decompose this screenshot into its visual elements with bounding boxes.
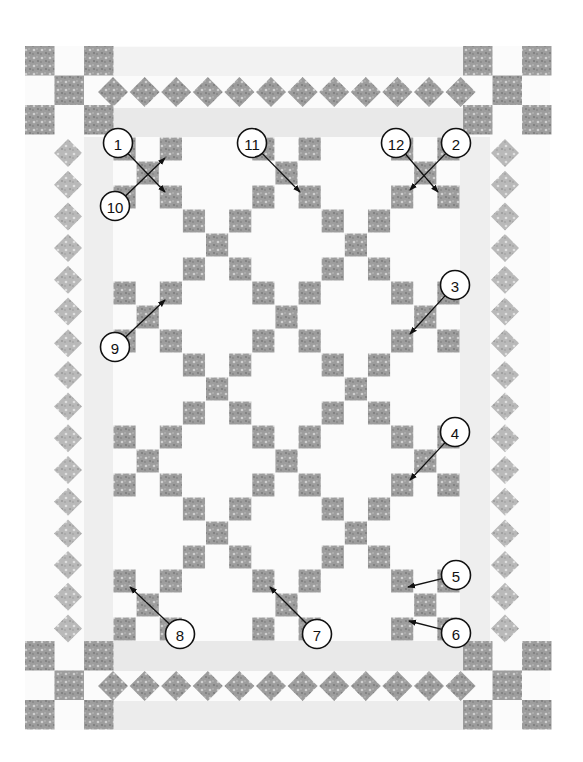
chain-square xyxy=(137,450,159,473)
chain-square xyxy=(322,402,344,425)
callout-number: 8 xyxy=(176,627,184,644)
corner-square xyxy=(493,76,523,106)
chain-square xyxy=(299,138,321,161)
chain-square xyxy=(368,258,390,281)
corner-square xyxy=(84,105,114,135)
callout-number: 7 xyxy=(313,627,321,644)
chain-square xyxy=(368,354,390,377)
chain-square xyxy=(252,282,274,305)
chain-square xyxy=(322,210,344,233)
chain-square xyxy=(391,330,413,353)
chain-square xyxy=(368,498,390,521)
chain-square xyxy=(229,402,251,425)
chain-square xyxy=(299,330,321,353)
corner-square xyxy=(84,46,114,76)
chain-square xyxy=(160,426,182,449)
chain-square xyxy=(414,450,436,473)
chain-square xyxy=(229,546,251,569)
chain-square xyxy=(114,474,136,497)
chain-square xyxy=(183,210,205,233)
chain-square xyxy=(391,570,413,593)
chain-square xyxy=(160,474,182,497)
chain-square xyxy=(114,426,136,449)
corner-square xyxy=(493,671,523,701)
chain-square xyxy=(322,498,344,521)
chain-square xyxy=(437,186,459,209)
callout-number: 10 xyxy=(107,199,124,216)
corner-square xyxy=(522,46,552,76)
callout-number: 2 xyxy=(452,136,460,153)
chain-square xyxy=(368,210,390,233)
corner-square xyxy=(522,641,552,671)
corner-square xyxy=(463,641,493,671)
chain-square xyxy=(160,570,182,593)
chain-square xyxy=(252,426,274,449)
chain-square xyxy=(252,186,274,209)
chain-square xyxy=(183,546,205,569)
chain-square xyxy=(114,618,136,641)
chain-square xyxy=(183,354,205,377)
chain-square xyxy=(275,450,297,473)
chain-square xyxy=(229,210,251,233)
chain-square xyxy=(229,258,251,281)
chain-square xyxy=(299,570,321,593)
chain-square xyxy=(252,570,274,593)
corner-square xyxy=(84,641,114,671)
chain-square xyxy=(322,546,344,569)
chain-square xyxy=(391,426,413,449)
callout-number: 4 xyxy=(451,425,459,442)
chain-square xyxy=(437,330,459,353)
callout-number: 5 xyxy=(452,568,460,585)
chain-square xyxy=(183,258,205,281)
chain-square xyxy=(299,474,321,497)
chain-square xyxy=(252,474,274,497)
callout-number: 6 xyxy=(452,626,460,643)
chain-square xyxy=(322,354,344,377)
chain-square xyxy=(160,186,182,209)
callout-number: 12 xyxy=(388,136,405,153)
corner-square xyxy=(522,105,552,135)
chain-square xyxy=(414,594,436,617)
chain-square xyxy=(368,402,390,425)
chain-square xyxy=(206,234,228,257)
corner-square xyxy=(463,105,493,135)
chain-square xyxy=(206,378,228,401)
chain-square xyxy=(345,522,367,545)
chain-square xyxy=(275,306,297,329)
corner-square xyxy=(55,76,85,106)
corner-square xyxy=(25,700,55,730)
chain-square xyxy=(299,426,321,449)
chain-square xyxy=(345,234,367,257)
chain-square xyxy=(391,282,413,305)
quilt-diagram: 123456789101112 xyxy=(0,0,583,762)
chain-square xyxy=(368,546,390,569)
chain-square xyxy=(391,186,413,209)
chain-square xyxy=(391,474,413,497)
corner-square xyxy=(25,105,55,135)
callout-number: 1 xyxy=(114,136,122,153)
chain-square xyxy=(252,330,274,353)
callout-number: 9 xyxy=(111,340,119,357)
callout-number: 11 xyxy=(244,136,260,153)
chain-square xyxy=(229,498,251,521)
chain-square xyxy=(206,522,228,545)
chain-square xyxy=(160,138,182,161)
chain-square xyxy=(275,594,297,617)
chain-square xyxy=(437,474,459,497)
chain-square xyxy=(414,162,436,185)
corner-square xyxy=(463,46,493,76)
chain-square xyxy=(299,186,321,209)
callout-number: 3 xyxy=(451,278,459,295)
chain-square xyxy=(114,282,136,305)
corner-square xyxy=(522,700,552,730)
corner-square xyxy=(25,46,55,76)
corner-square xyxy=(55,671,85,701)
chain-square xyxy=(299,282,321,305)
chain-square xyxy=(252,618,274,641)
chain-square xyxy=(345,378,367,401)
corner-square xyxy=(463,700,493,730)
corner-square xyxy=(84,700,114,730)
chain-square xyxy=(322,258,344,281)
chain-square xyxy=(183,498,205,521)
chain-square xyxy=(183,402,205,425)
